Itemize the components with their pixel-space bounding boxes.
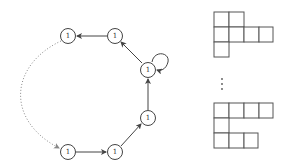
graph-node: 1 (108, 29, 123, 44)
vertical-ellipsis-icon (221, 78, 223, 90)
svg-text:1: 1 (113, 148, 117, 156)
svg-text:1: 1 (66, 148, 70, 156)
graph-nodes: 1 1 1 1 1 1 (61, 29, 156, 160)
diagram-canvas: 1 1 1 1 1 1 (0, 0, 282, 166)
young-diagram-bottom (214, 103, 273, 148)
graph-node: 1 (141, 63, 156, 78)
young-diagram-top (214, 12, 273, 57)
svg-text:1: 1 (146, 114, 150, 122)
graph-node: 1 (141, 111, 156, 126)
graph-node: 1 (61, 145, 76, 160)
graph-node: 1 (108, 145, 123, 160)
graph-node: 1 (61, 29, 76, 44)
svg-text:1: 1 (66, 32, 70, 40)
graph-edges (21, 36, 169, 152)
edge-n3-n2 (121, 42, 142, 63)
dotted-edge-n1-n6 (21, 41, 61, 148)
edge-n5-n4 (121, 124, 141, 146)
svg-text:1: 1 (146, 66, 150, 74)
svg-text:1: 1 (113, 32, 117, 40)
